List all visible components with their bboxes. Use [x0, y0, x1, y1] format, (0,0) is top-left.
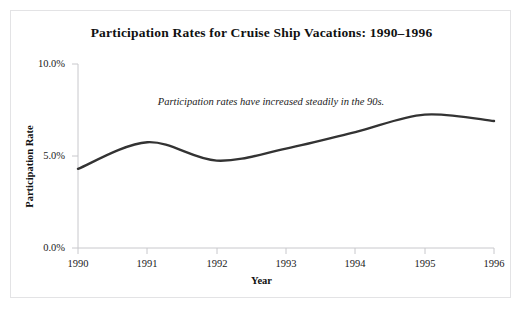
y-axis-tick-label: 10.0%: [15, 58, 65, 69]
x-axis-tick-label: 1994: [330, 258, 380, 269]
y-axis-tick-label: 0.0%: [15, 242, 65, 253]
x-axis-tick-label: 1990: [53, 258, 103, 269]
x-axis-tick-label: 1995: [400, 258, 450, 269]
chart-frame: Participation Rates for Cruise Ship Vaca…: [10, 10, 511, 298]
y-axis-label-wrap: Participation Rate: [19, 111, 39, 231]
x-axis-tick-label: 1992: [192, 258, 242, 269]
y-axis-label: Participation Rate: [24, 107, 35, 227]
plot-area: [11, 11, 512, 299]
x-axis-tick-label: 1991: [122, 258, 172, 269]
x-axis-label: Year: [11, 275, 512, 286]
data-series-line: [78, 114, 494, 169]
x-axis-tick-label: 1993: [261, 258, 311, 269]
x-axis-tick-label: 1996: [469, 258, 519, 269]
